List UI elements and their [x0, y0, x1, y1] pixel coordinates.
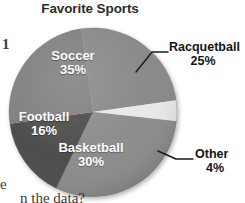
callout-racquetball-name: Racquetball — [169, 40, 240, 54]
slice-label-soccer: Soccer 35% — [31, 49, 115, 77]
slice-label-football-pct: 16% — [2, 124, 86, 138]
slice-label-soccer-name: Soccer — [51, 48, 94, 63]
slice-label-football: Football 16% — [2, 110, 86, 138]
page-fragment-left-edge: 1 — [2, 36, 14, 58]
callout-label-other: Other 4% — [195, 148, 245, 176]
page-fragment-bottom-left: e — [0, 176, 14, 196]
callout-other-name: Other — [195, 147, 228, 161]
callout-label-racquetball: Racquetball 25% — [169, 41, 245, 69]
slice-label-soccer-pct: 35% — [31, 63, 115, 77]
slice-label-basketball-name: Basketball — [58, 140, 123, 155]
pie-chart-figure: Favorite Sports — [0, 0, 245, 203]
callout-other-pct: 4% — [195, 162, 235, 176]
callout-racquetball-pct: 25% — [169, 55, 237, 69]
slice-label-basketball-pct: 30% — [41, 155, 141, 169]
page-fragment-bottom-line: n the data? — [20, 190, 140, 203]
slice-label-basketball: Basketball 30% — [41, 141, 141, 169]
slice-label-football-name: Football — [19, 109, 70, 124]
